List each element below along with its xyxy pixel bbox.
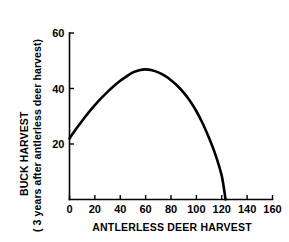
y-tick-label: 20 [52, 138, 64, 150]
x-tick-label: 100 [187, 203, 205, 215]
x-tick-label: 140 [238, 203, 256, 215]
x-tick-label: 40 [114, 203, 126, 215]
x-tick-label: 120 [213, 203, 231, 215]
x-tick-label: 0 [66, 203, 72, 215]
x-tick-label: 160 [263, 203, 281, 215]
x-tick-label: 80 [165, 203, 177, 215]
x-tick-label: 20 [89, 203, 101, 215]
y-tick-label: 60 [52, 27, 64, 39]
y-axis-tick-labels: 204060 [52, 27, 64, 150]
y-tick-label: 40 [52, 83, 64, 95]
data-curve [70, 69, 226, 199]
x-axis-tick-labels: 020406080100120140160 [66, 203, 281, 215]
x-tick-label: 60 [140, 203, 152, 215]
plot-area: 020406080100120140160 204060 [0, 0, 289, 242]
x-axis-label: ANTLERLESS DEER HARVEST [55, 221, 289, 233]
chart-figure: BUCK HARVEST ( 3 years after antlerless … [0, 0, 289, 242]
